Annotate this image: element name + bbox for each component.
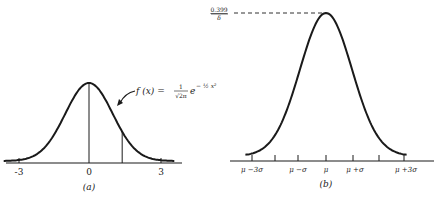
panel-a-tick-label-3: 3 [158, 167, 164, 177]
formula-pointer-arrow [120, 91, 135, 103]
formula-lhs: f (x) = [135, 86, 165, 96]
panel-b-caption: (b) [320, 179, 333, 189]
formula-numerator: 1 [179, 83, 183, 90]
formula-exponent: − ½ x² [196, 82, 217, 89]
formula-base: e [190, 86, 195, 96]
panel-b-peak-numerator: 0.399 [210, 6, 227, 13]
panel-b-tick-label-mu-plus-sigma: μ +σ [346, 166, 364, 174]
panel-b: 0.399 δ μ −3σ μ −σ μ μ +σ μ +3σ (b) [210, 6, 434, 189]
panel-a-caption: (a) [83, 182, 96, 192]
panel-b-tick-label-mu-plus-3sigma: μ +3σ [395, 166, 417, 174]
panel-b-tick-label-mu: μ [324, 166, 329, 174]
panel-a-tick-label-0: 0 [86, 167, 92, 177]
panel-b-curve [245, 13, 406, 155]
normal-distribution-figure: -3 0 3 (a) f (x) = 1 √2π e − ½ x² 0.399 … [0, 0, 436, 197]
panel-b-peak-denominator: δ [217, 14, 221, 21]
panel-b-tick-label-mu-minus-3sigma: μ −3σ [241, 166, 263, 174]
formula-denominator: √2π [175, 92, 187, 99]
panel-a: -3 0 3 (a) f (x) = 1 √2π e − ½ x² [4, 82, 217, 192]
panel-b-tick-label-mu-minus-sigma: μ −σ [289, 166, 307, 174]
panel-a-tick-label-neg3: -3 [15, 167, 24, 177]
